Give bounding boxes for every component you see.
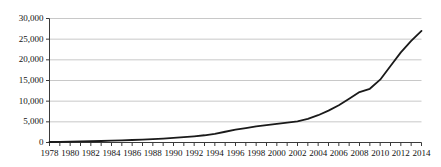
y-axis-label-10,000: 10,000 [0,97,44,106]
line-chart: 05,00010,00015,00020,00025,00030,0001978… [0,0,441,167]
data-series-line [50,31,422,142]
x-axis-label-2014: 2014 [407,149,437,158]
y-axis-label-5,000: 5,000 [0,117,44,126]
y-axis-label-25,000: 25,000 [0,35,44,44]
y-axis-label-0: 0 [0,138,44,147]
chart-plot-area [0,0,441,167]
y-axis-label-30,000: 30,000 [0,14,44,23]
y-axis-label-15,000: 15,000 [0,76,44,85]
y-axis-label-20,000: 20,000 [0,55,44,64]
